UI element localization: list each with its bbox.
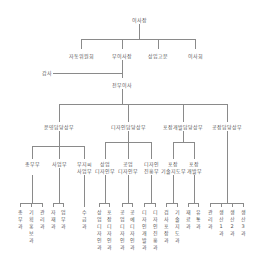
connector — [158, 39, 159, 49]
node-committee: 자동위원회 — [69, 53, 94, 59]
connector — [144, 203, 145, 207]
connector — [128, 131, 129, 142]
team: 업무과 — [60, 209, 66, 230]
unit-industrial-design-a: 공업 — [123, 161, 133, 167]
connector — [105, 142, 106, 159]
team: 공예디자인과 — [129, 209, 135, 251]
connector — [63, 203, 64, 207]
connector — [139, 24, 140, 40]
connector — [155, 203, 156, 207]
connector — [128, 175, 129, 203]
team: 관리과 — [207, 209, 213, 230]
division-packaging: 포장개발담당상무 — [163, 124, 203, 130]
connector — [122, 89, 123, 104]
connector — [128, 142, 129, 159]
connector — [194, 175, 195, 203]
team: 수급과 — [81, 209, 87, 230]
connector — [188, 203, 189, 207]
connector — [99, 203, 100, 207]
unit-industrial-design-b: 디자인부 — [118, 168, 138, 174]
connector — [42, 203, 43, 207]
connector — [32, 146, 33, 159]
connector — [221, 203, 222, 207]
connector — [194, 142, 195, 159]
team: 생산1과 — [218, 209, 224, 237]
node-board: 이사회 — [188, 53, 203, 59]
team: 디자인진흥과 — [152, 209, 158, 251]
unit-site-business-b: 사업부 — [77, 168, 92, 174]
connector — [59, 104, 227, 105]
connector — [31, 203, 32, 207]
connector — [210, 203, 243, 204]
unit-design-promo-b: 진흥부 — [144, 168, 159, 174]
node-managing-director: 전무이사 — [112, 82, 132, 88]
connector — [232, 203, 233, 207]
team: 자재과 — [50, 209, 56, 230]
connector — [105, 175, 106, 203]
unit-site-business-a: 부지씨 — [77, 161, 92, 167]
node-vice-chairman: 부이사장 — [112, 53, 132, 59]
connector — [227, 131, 228, 203]
connector — [122, 60, 123, 78]
connector — [32, 175, 33, 203]
team: 관리과 — [39, 209, 45, 230]
connector — [151, 175, 152, 203]
connector — [195, 39, 196, 49]
connector — [59, 104, 60, 122]
connector — [128, 104, 129, 122]
unit-pack-tech-a: 포장 — [168, 161, 178, 167]
team: 재료과 — [185, 209, 191, 230]
connector — [173, 175, 174, 203]
connector — [173, 142, 174, 159]
connector — [84, 146, 85, 159]
unit-general-affairs: 총무부 — [25, 161, 40, 167]
connector — [122, 39, 123, 49]
connector — [59, 168, 60, 203]
connector — [177, 203, 178, 207]
connector — [53, 203, 54, 207]
connector — [84, 175, 85, 207]
unit-commercial-design-a: 상업 — [100, 161, 110, 167]
unit-pack-dev-a: 포장 — [189, 161, 199, 167]
connector — [81, 39, 82, 49]
unit-business: 사업부 — [52, 161, 67, 167]
unit-commercial-design-b: 디자인부 — [95, 168, 115, 174]
connector — [53, 73, 122, 74]
team: 생산3과 — [240, 209, 246, 237]
team: 디자인개발과 — [141, 209, 147, 251]
unit-pack-dev-b: 개발부 — [187, 168, 202, 174]
team: 생산2과 — [229, 209, 235, 237]
connector — [227, 104, 228, 122]
team: 상업디자인과 — [96, 209, 102, 251]
connector — [243, 203, 244, 207]
connector — [81, 39, 195, 40]
division-factory: 공장담당상무 — [212, 124, 242, 130]
node-audit: 감사 — [42, 70, 52, 76]
connector — [132, 203, 133, 207]
node-advisor: 상임고문 — [148, 53, 168, 59]
connector — [198, 203, 199, 207]
team: 포장디자인과 — [106, 209, 112, 251]
team: 기획홍보과 — [28, 209, 34, 244]
unit-pack-tech-b: 기술지도부 — [161, 168, 186, 174]
connector — [20, 203, 21, 207]
division-operations: 운영담당상무 — [44, 124, 74, 130]
team: 기술지도과 — [174, 209, 180, 244]
connector — [122, 203, 123, 207]
connector — [32, 146, 84, 147]
connector — [183, 131, 184, 142]
connector — [210, 203, 211, 207]
connector — [166, 203, 167, 207]
connector — [151, 142, 152, 159]
org-chart: 이사장 자동위원회 부이사장 상임고문 이사회 감사 전무이사 운영담당상무 디… — [0, 0, 263, 259]
team: 총무과 — [17, 209, 23, 230]
team: 공업디자인과 — [119, 209, 125, 251]
connector — [183, 104, 184, 122]
connector — [173, 142, 194, 143]
connector — [109, 203, 110, 207]
team: 검사포장과 — [163, 209, 169, 244]
unit-design-promo-a: 디자인 — [144, 161, 159, 167]
division-design: 디자인담당상무 — [111, 124, 146, 130]
connector — [59, 131, 60, 159]
team: 유통과 — [195, 209, 201, 230]
